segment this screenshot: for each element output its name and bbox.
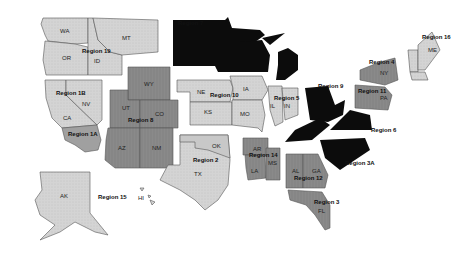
label-ny: NY [380,70,388,76]
label-region-16: Region 16 [422,34,451,40]
state-vt[interactable] [408,50,418,72]
label-region-6: Region 6 [371,127,397,133]
label-wa: WA [60,28,69,34]
region-19[interactable] [41,18,158,75]
label-la: LA [251,168,258,174]
label-wy: WY [144,81,154,87]
label-nm: NM [152,145,161,151]
label-mo: MO [240,111,250,117]
state-ak[interactable] [35,172,108,240]
state-oh-wv[interactable] [305,86,345,122]
state-mi-lower[interactable] [276,48,298,80]
label-ok: OK [212,143,221,149]
label-az: AZ [118,145,126,151]
label-region-11: Region 11 [358,88,387,94]
label-or: OR [62,55,72,61]
label-region-15: Region 15 [98,194,127,200]
label-region-7: Region 7 [178,20,204,26]
label-ca: CA [63,115,71,121]
label-ga: GA [312,168,321,174]
label-region-3a: Region 3A [345,160,375,166]
region-10[interactable] [177,76,268,132]
label-al: AL [292,168,300,174]
label-nv: NV [82,101,90,107]
label-ks: KS [204,109,212,115]
label-ne: NE [197,89,205,95]
label-ut: UT [122,105,130,111]
label-region-2: Region 2 [193,157,219,163]
state-ma-ct-ri[interactable] [410,72,428,80]
region-1b[interactable] [45,80,102,128]
label-me: ME [428,47,437,53]
label-region-3: Region 3 [314,199,340,205]
label-ia: IA [243,86,249,92]
label-region-5: Region 5 [274,95,300,101]
label-hi: HI [138,195,144,201]
label-mt: MT [122,35,131,41]
label-tx: TX [194,171,202,177]
state-ky[interactable] [285,118,330,142]
label-pa: PA [380,95,388,101]
label-region-12: Region 12 [294,175,323,181]
region-15[interactable] [35,172,155,240]
label-ms: MS [268,160,277,166]
label-region-9: Region 9 [318,83,344,89]
state-mi-upper[interactable] [262,33,285,45]
region-7[interactable] [173,17,298,80]
label-region-14: Region 14 [249,152,278,158]
label-ak: AK [60,193,68,199]
label-co: CO [155,111,164,117]
us-regions-map: WA OR ID MT Region 19 Region 1B NV CA Re… [0,0,462,262]
region-14[interactable] [243,138,280,180]
label-region-10: Region 10 [210,92,239,98]
state-wi[interactable] [240,40,270,72]
region-1a[interactable] [62,125,101,152]
label-region-4: Region 4 [369,59,395,65]
label-region-19: Region 19 [82,48,111,54]
label-in: IN [284,103,290,109]
label-fl: FL [318,208,326,214]
label-id: ID [94,58,101,64]
label-region-8: Region 8 [128,117,154,123]
state-ca-south[interactable] [62,125,101,152]
label-il: IL [270,103,276,109]
label-region-1a: Region 1A [68,131,98,137]
label-region-1b: Region 1B [56,90,86,96]
